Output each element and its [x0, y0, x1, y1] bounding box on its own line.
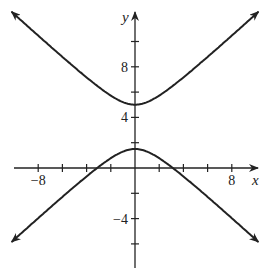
x-tick-label: 8 [228, 173, 235, 188]
y-tick-label: 4 [121, 110, 128, 125]
chart: −8884−4 x y [0, 0, 269, 272]
x-axis-label: x [251, 172, 259, 188]
axes: −8884−4 [14, 12, 258, 268]
y-tick-label: 8 [121, 60, 128, 75]
x-tick-label: −8 [31, 173, 46, 188]
hyperbola-plot: −8884−4 x y [0, 0, 269, 272]
y-axis-label: y [120, 9, 129, 25]
y-tick-label: −4 [113, 212, 128, 227]
